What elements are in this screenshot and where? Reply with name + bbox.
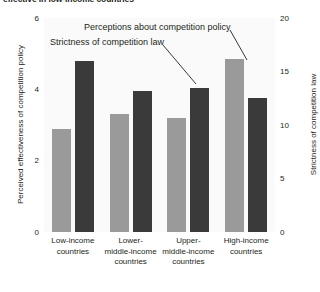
y-tick-left: 2 [25,156,39,165]
bar [75,61,94,232]
chart-figure: effective in low-income countries 6420 2… [0,0,320,292]
bar [110,114,129,232]
bar [52,129,71,232]
annotation-strictness: Strictness of competition law [50,37,164,47]
bar [133,91,152,232]
y-axis-right-title: Strictness of competition law [309,25,318,225]
y-tick-right: 0 [280,228,296,237]
y-tick-right: 15 [280,67,296,76]
x-category-label: Upper-middle-incomecountries [156,236,222,268]
bar [190,88,209,232]
y-tick-right: 5 [280,174,296,183]
y-tick-right: 10 [280,121,296,130]
annotation-perceptions: Perceptions about competition policy [84,22,231,32]
y-tick-left: 0 [25,228,39,237]
x-category-label: High-incomecountries [213,236,279,257]
y-tick-right: 20 [280,14,296,23]
x-category-label: Lower-middle-incomecountries [98,236,164,268]
bar [167,118,186,232]
bar [248,98,267,232]
x-category-label: Low-incomecountries [40,236,106,257]
bars-layer [44,18,275,232]
y-axis-left-title: Perceived effectiveness of competition p… [16,25,25,225]
y-tick-left: 6 [25,14,39,23]
chart-title: effective in low-income countries [3,0,313,4]
y-tick-left: 4 [25,85,39,94]
bar [225,59,244,232]
